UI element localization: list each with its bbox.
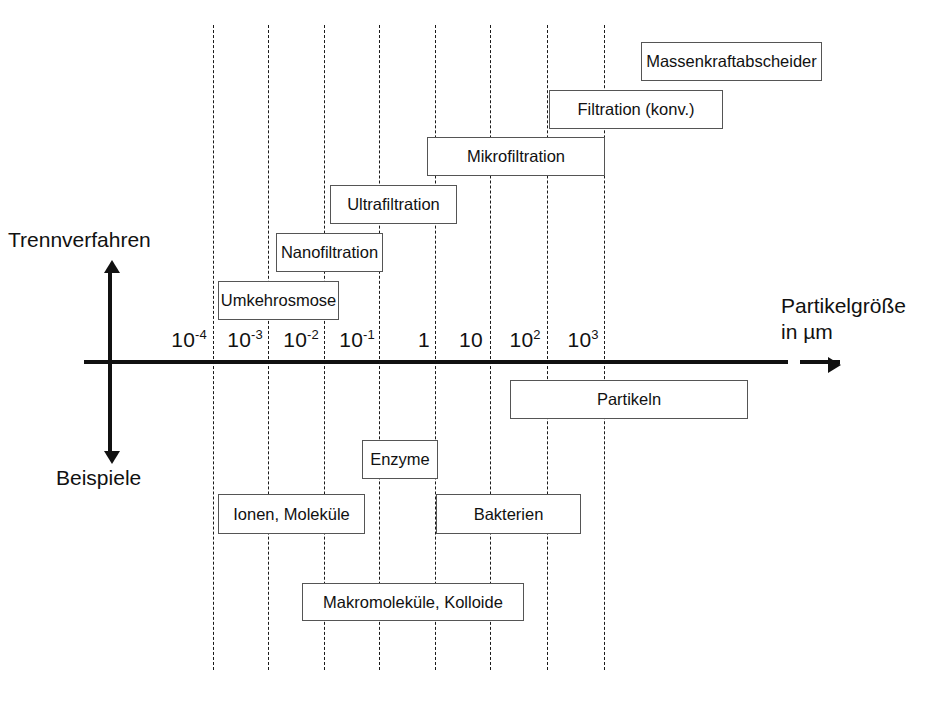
y-axis-label-bottom: Beispiele xyxy=(56,466,141,490)
xtick-label-10e2: 102 xyxy=(510,327,541,352)
xtick-label-10e-4: 10-4 xyxy=(171,327,206,352)
gridline-10e-2 xyxy=(324,25,325,670)
range-box-umkehrosmose[interactable]: Umkehrosmose xyxy=(218,281,339,320)
gridline-10e-3 xyxy=(268,25,269,670)
x-axis-label: Partikelgröße in µm xyxy=(781,293,906,344)
gridline-10e-4 xyxy=(213,25,214,670)
xtick-label-10e-3: 10-3 xyxy=(227,327,262,352)
y-axis-double-arrow xyxy=(108,272,112,452)
range-box-ionen-molekuele[interactable]: Ionen, Moleküle xyxy=(218,494,365,534)
gridline-10e-1 xyxy=(379,25,380,670)
x-axis-label-line1: Partikelgröße xyxy=(781,293,906,319)
range-box-massenkraftabscheider[interactable]: Massenkraftabscheider xyxy=(641,42,822,81)
xtick-label-10e3: 103 xyxy=(568,327,599,352)
gridline-10e2 xyxy=(547,25,548,670)
range-box-label: Makromoleküle, Kolloide xyxy=(323,593,503,612)
x-axis-label-line2: in µm xyxy=(781,319,906,345)
range-box-label: Mikrofiltration xyxy=(467,147,565,166)
range-box-label: Ultrafiltration xyxy=(347,195,440,214)
range-box-label: Enzyme xyxy=(370,450,430,469)
x-axis-line xyxy=(84,360,788,364)
y-axis-label-top: Trennverfahren xyxy=(8,228,151,252)
range-box-mikrofiltration[interactable]: Mikrofiltration xyxy=(427,137,605,176)
range-box-label: Massenkraftabscheider xyxy=(646,52,817,71)
x-axis-arrow xyxy=(800,360,840,364)
xtick-label-10e-1: 10-1 xyxy=(339,327,374,352)
range-box-label: Partikeln xyxy=(597,390,661,409)
range-box-bakterien[interactable]: Bakterien xyxy=(436,494,581,534)
range-box-label: Ionen, Moleküle xyxy=(233,505,350,524)
xtick-label-10: 10 xyxy=(459,327,483,352)
range-box-label: Nanofiltration xyxy=(281,243,378,262)
xtick-label-1: 1 xyxy=(418,327,430,352)
range-box-label: Bakterien xyxy=(474,505,544,524)
range-box-partikeln[interactable]: Partikeln xyxy=(510,380,748,419)
range-box-enzyme[interactable]: Enzyme xyxy=(362,440,438,479)
range-box-label: Umkehrosmose xyxy=(221,291,337,310)
range-box-ultrafiltration[interactable]: Ultrafiltration xyxy=(330,185,457,224)
xtick-label-10e-2: 10-2 xyxy=(283,327,318,352)
gridline-10 xyxy=(490,25,491,670)
range-box-nanofiltration[interactable]: Nanofiltration xyxy=(276,233,383,272)
range-box-filtration-konv[interactable]: Filtration (konv.) xyxy=(549,90,723,129)
range-box-makromolekuele-kolloide[interactable]: Makromoleküle, Kolloide xyxy=(302,583,524,621)
range-box-label: Filtration (konv.) xyxy=(577,100,694,119)
gridline-1 xyxy=(435,25,436,670)
diagram-canvas: Massenkraftabscheider Filtration (konv.)… xyxy=(0,0,940,701)
